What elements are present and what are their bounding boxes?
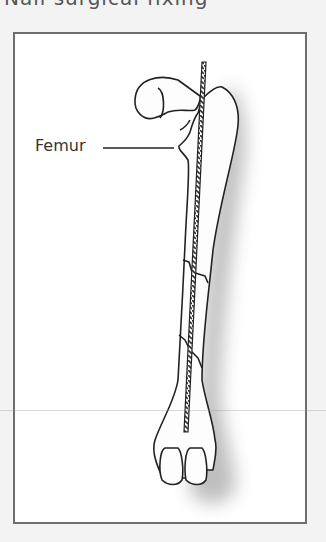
scan-artifact-line <box>0 410 326 411</box>
femur-label: Femur <box>35 136 85 155</box>
femur-illustration <box>0 0 326 542</box>
